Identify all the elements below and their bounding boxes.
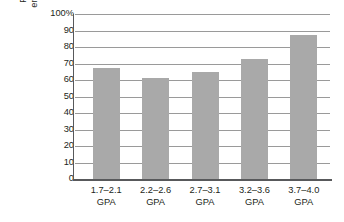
x-axis-tick-label-line: GPA (83, 196, 129, 208)
y-axis-tick-label: 100% (50, 9, 74, 18)
x-axis-tick-label-line: GPA (182, 196, 228, 208)
x-axis-tick-label-line: GPA (132, 196, 178, 208)
bar-slot (83, 14, 129, 179)
x-axis-tick-label-line: GPA (231, 196, 277, 208)
x-axis-tick-label: 1.7–2.1GPA (83, 184, 129, 208)
bar (93, 68, 120, 179)
y-axis-title-line-1: Percentage of students (18, 0, 30, 3)
y-axis-tick-labels: 0102030405060708090100% (44, 14, 74, 179)
bar (290, 35, 317, 179)
y-axis-title-line-2: endorsing practice testing (29, 0, 41, 8)
x-axis-tick-label: 3.2–3.6GPA (231, 184, 277, 208)
x-axis-tick-labels: 1.7–2.1GPA2.2–2.6GPA2.7–3.1GPA3.2–3.6GPA… (75, 184, 330, 208)
bar-slot (231, 14, 277, 179)
bar-slot (281, 14, 327, 179)
bar-slot (182, 14, 228, 179)
y-axis-title: Percentage of students endorsing practic… (16, 0, 42, 40)
bar-slot (132, 14, 178, 179)
bar-chart: Percentage of students endorsing practic… (0, 0, 344, 222)
x-axis-tick-label-line: 2.7–3.1 (182, 184, 228, 196)
x-axis-tick-label: 2.7–3.1GPA (182, 184, 228, 208)
x-axis-tick-label-line: 2.2–2.6 (132, 184, 178, 196)
x-axis-tick-label-line: 3.7–4.0 (281, 184, 327, 196)
bar (241, 59, 268, 179)
x-axis-tick-label-line: 1.7–2.1 (83, 184, 129, 196)
x-axis-tick-label: 2.2–2.6GPA (132, 184, 178, 208)
bar-series (75, 14, 330, 179)
bar (142, 78, 169, 179)
x-axis-tick-label-line: GPA (281, 196, 327, 208)
x-axis-tick-label-line: 3.2–3.6 (231, 184, 277, 196)
x-axis-line (73, 179, 332, 181)
bar (192, 72, 219, 179)
x-axis-tick-label: 3.7–4.0GPA (281, 184, 327, 208)
